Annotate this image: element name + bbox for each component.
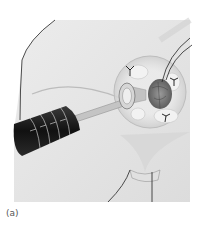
figure-caption: (a) (6, 208, 19, 218)
medical-illustration (0, 0, 206, 205)
